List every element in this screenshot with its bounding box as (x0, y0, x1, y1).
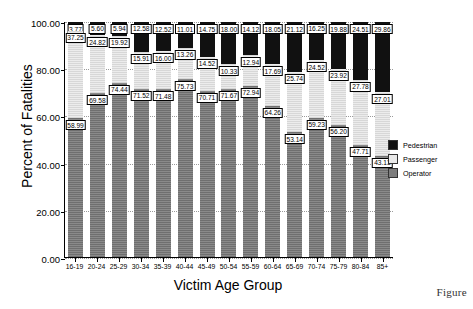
bar-segment-pedestrian[interactable]: 12.58 (134, 22, 149, 52)
bar-segment-pedestrian[interactable]: 5.94 (112, 22, 127, 36)
bar-column[interactable]: 18.0517.6964.26 (265, 22, 280, 257)
bar-segment-passenger[interactable]: 24.52 (309, 60, 324, 118)
x-axis-tick: 50-54 (221, 258, 236, 276)
x-axis-tick-mark (163, 258, 164, 262)
bar-value-label: 18.05 (263, 24, 284, 34)
x-axis-tick: 20-24 (89, 258, 104, 276)
bar-column[interactable]: 3.7737.2558.99 (68, 22, 83, 257)
bar-column[interactable]: 14.7514.5270.71 (200, 22, 215, 257)
bar-segment-operator[interactable]: 47.71 (353, 145, 368, 257)
bar-segment-pedestrian[interactable]: 29.86 (375, 22, 390, 92)
bar-segment-operator[interactable]: 70.71 (200, 91, 215, 257)
bar-column[interactable]: 24.5127.7847.71 (353, 22, 368, 257)
bar-segment-operator[interactable]: 53.14 (287, 132, 302, 257)
bar-segment-pedestrian[interactable]: 16.25 (309, 22, 324, 60)
bar-segment-passenger[interactable]: 27.78 (353, 80, 368, 145)
x-axis-tick: 40-44 (177, 258, 192, 276)
bar-value-label: 11.01 (175, 24, 195, 34)
x-axis-tick: 30-34 (133, 258, 148, 276)
x-axis-tick: 75-79 (331, 258, 346, 276)
bar-value-label: 5.60 (89, 24, 106, 34)
bar-group: 3.7737.2558.995.6024.8269.585.9419.9274.… (65, 22, 393, 257)
x-axis-tick: 35-39 (155, 258, 170, 276)
legend-item-operator[interactable]: Operator (388, 168, 437, 178)
bar-segment-operator[interactable]: 72.94 (243, 86, 258, 257)
bar-segment-pedestrian[interactable]: 18.05 (265, 22, 280, 64)
bar-value-label: 72.94 (241, 88, 262, 98)
figure-caption: Figure (436, 286, 467, 298)
bar-value-label: 71.52 (131, 91, 152, 101)
bar-segment-operator[interactable]: 75.73 (178, 79, 193, 257)
bar-value-label: 69.58 (87, 95, 108, 105)
bar-segment-passenger[interactable]: 19.92 (112, 36, 127, 83)
bar-segment-pedestrian[interactable]: 24.51 (353, 22, 368, 80)
bar-column[interactable]: 11.0113.2675.73 (178, 22, 193, 257)
x-axis-tick: 85+ (375, 258, 390, 276)
bar-segment-passenger[interactable]: 16.00 (156, 51, 171, 89)
bar-segment-passenger[interactable]: 17.69 (265, 64, 280, 106)
legend-item-pedestrian[interactable]: Pedestrian (388, 140, 437, 150)
bar-column[interactable]: 16.2524.5259.23 (309, 22, 324, 257)
bar-segment-passenger[interactable]: 12.94 (243, 55, 258, 85)
bar-column[interactable]: 5.9419.9274.44 (112, 22, 127, 257)
bar-column[interactable]: 5.6024.8269.58 (90, 22, 105, 257)
bar-value-label: 14.12 (241, 24, 262, 34)
bar-value-label: 12.94 (241, 57, 262, 67)
x-axis-tick-mark (361, 258, 362, 262)
bar-segment-pedestrian[interactable]: 5.60 (90, 22, 105, 35)
bar-segment-pedestrian[interactable]: 11.01 (178, 22, 193, 48)
x-axis-tick-mark (317, 258, 318, 262)
bar-value-label: 25.74 (284, 74, 305, 84)
bar-segment-operator[interactable]: 56.20 (331, 125, 346, 257)
bar-value-label: 27.78 (350, 82, 371, 92)
x-axis-tick: 80-84 (353, 258, 368, 276)
bar-segment-pedestrian[interactable]: 12.52 (156, 22, 171, 51)
bar-value-label: 24.52 (306, 62, 327, 72)
x-axis-tick-label: 25-29 (110, 263, 127, 270)
x-axis-tick: 65-69 (287, 258, 302, 276)
bar-segment-operator[interactable]: 71.52 (134, 89, 149, 257)
bar-segment-passenger[interactable]: 14.52 (200, 57, 215, 91)
bar-column[interactable]: 21.1225.7453.14 (287, 22, 302, 257)
bar-column[interactable]: 19.8823.9256.20 (331, 22, 346, 257)
x-axis-tick-mark (273, 258, 274, 262)
legend-item-passenger[interactable]: Passenger (388, 154, 437, 164)
bar-segment-pedestrian[interactable]: 18.00 (221, 22, 236, 64)
y-axis-tick-label: 100.00 (31, 18, 60, 29)
bar-column[interactable]: 12.5216.0071.48 (156, 22, 171, 257)
bar-segment-passenger[interactable]: 10.33 (221, 64, 236, 88)
bar-segment-operator[interactable]: 58.99 (68, 118, 83, 257)
bar-segment-passenger[interactable]: 13.26 (178, 48, 193, 79)
bar-segment-pedestrian[interactable]: 3.77 (68, 22, 83, 31)
bar-value-label: 13.26 (175, 50, 196, 60)
bar-segment-operator[interactable]: 71.67 (221, 89, 236, 257)
bar-column[interactable]: 12.5815.9171.52 (134, 22, 149, 257)
bar-value-label: 59.23 (306, 120, 327, 130)
bar-segment-operator[interactable]: 69.58 (90, 93, 105, 257)
bar-segment-operator[interactable]: 71.48 (156, 89, 171, 257)
bar-segment-operator[interactable]: 64.26 (265, 106, 280, 257)
bar-segment-pedestrian[interactable]: 14.75 (200, 22, 215, 57)
bar-segment-passenger[interactable]: 37.25 (68, 31, 83, 119)
bar-value-label: 16.25 (306, 24, 327, 34)
legend-swatch-pedestrian (388, 140, 398, 150)
x-axis-tick: 16-19 (67, 258, 82, 276)
bar-column[interactable]: 18.0010.3371.67 (221, 22, 236, 257)
bar-value-label: 14.52 (197, 59, 218, 69)
bar-segment-operator[interactable]: 59.23 (309, 118, 324, 257)
bar-segment-passenger[interactable]: 15.91 (134, 52, 149, 89)
bar-segment-passenger[interactable]: 25.74 (287, 72, 302, 132)
bar-segment-pedestrian[interactable]: 19.88 (331, 22, 346, 69)
bar-segment-passenger[interactable]: 23.92 (331, 69, 346, 125)
bar-value-label: 24.51 (350, 24, 371, 34)
x-axis-tick: 60-64 (265, 258, 280, 276)
plot-area: 0.0020.0040.0060.0080.00100.00 3.7737.25… (64, 22, 393, 258)
x-axis-tick: 45-49 (199, 258, 214, 276)
bar-column[interactable]: 14.1212.9472.94 (243, 22, 258, 257)
bar-segment-operator[interactable]: 74.44 (112, 83, 127, 257)
bar-value-label: 24.82 (87, 37, 108, 47)
bar-segment-pedestrian[interactable]: 14.12 (243, 22, 258, 55)
bar-segment-passenger[interactable]: 24.82 (90, 35, 105, 93)
x-axis-tick: 70-74 (309, 258, 324, 276)
bar-segment-pedestrian[interactable]: 21.12 (287, 22, 302, 72)
